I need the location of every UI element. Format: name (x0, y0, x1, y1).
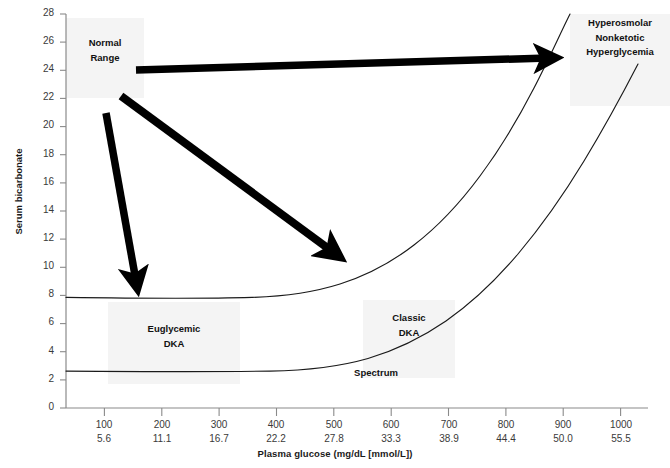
y-axis-ticks (60, 14, 66, 408)
diabetic-emergency-spectrum-chart: 0 2 4 6 8 10 12 14 16 18 20 22 24 26 28 … (0, 0, 670, 468)
y-tick-6: 6 (28, 316, 54, 327)
hyperosmolar-line2: Nonketotic (595, 32, 644, 43)
hyperosmolar-line3: Hyperglycemia (586, 46, 654, 57)
classic-dka-label: Classic DKA (365, 311, 453, 340)
x-tick-mgdl-900: 900 (533, 419, 593, 430)
x-tick-mmoll-50-0: 50.0 (533, 433, 593, 444)
y-tick-12: 12 (28, 232, 54, 243)
y-tick-8: 8 (28, 288, 54, 299)
x-tick-mmoll-11-1: 11.1 (132, 433, 192, 444)
euglycemic-line1: Euglycemic (148, 323, 201, 334)
y-tick-4: 4 (28, 345, 54, 356)
y-axis-title: Serum bicarbonate (13, 122, 24, 262)
x-tick-mgdl-400: 400 (246, 419, 306, 430)
spectrum-label: Spectrum (336, 366, 416, 381)
x-tick-mmoll-22-2: 22.2 (246, 433, 306, 444)
y-tick-2: 2 (28, 373, 54, 384)
y-tick-10: 10 (28, 260, 54, 271)
x-tick-mmoll-55-5: 55.5 (591, 433, 651, 444)
x-tick-mgdl-800: 800 (476, 419, 536, 430)
x-tick-mgdl-300: 300 (189, 419, 249, 430)
x-tick-mgdl-100: 100 (74, 419, 134, 430)
hyperosmolar-line1: Hyperosmolar (588, 17, 652, 28)
arrow-to-euglycemic-dka (106, 113, 136, 281)
y-tick-22: 22 (28, 91, 54, 102)
normal-range-line2: Range (90, 52, 119, 63)
x-axis-title: Plasma glucose (mg/dL [mmol/L]) (0, 448, 670, 459)
x-tick-mmoll-33-3: 33.3 (361, 433, 421, 444)
y-tick-0: 0 (28, 401, 54, 412)
y-tick-14: 14 (28, 204, 54, 215)
classic-line2: DKA (399, 327, 420, 338)
chart-canvas (0, 0, 670, 468)
hyperosmolar-label: Hyperosmolar Nonketotic Hyperglycemia (572, 16, 668, 60)
y-tick-24: 24 (28, 63, 54, 74)
y-tick-20: 20 (28, 119, 54, 130)
euglycemic-line2: DKA (164, 338, 185, 349)
x-tick-mmoll-44-4: 44.4 (476, 433, 536, 444)
x-tick-mgdl-700: 700 (419, 419, 479, 430)
x-tick-mmoll-16-7: 16.7 (189, 433, 249, 444)
arrow-to-hyperosmolar (136, 58, 548, 70)
x-tick-mgdl-500: 500 (304, 419, 364, 430)
arrow-to-classic-dka (121, 96, 333, 252)
normal-range-label: Normal Range (66, 36, 144, 65)
y-tick-28: 28 (28, 7, 54, 18)
x-axis-ticks (104, 408, 620, 416)
x-tick-mgdl-1000: 1000 (591, 419, 651, 430)
y-tick-18: 18 (28, 148, 54, 159)
x-tick-mmoll-27-8: 27.8 (304, 433, 364, 444)
normal-range-line1: Normal (89, 37, 122, 48)
x-tick-mmoll-38-9: 38.9 (419, 433, 479, 444)
x-tick-mgdl-600: 600 (361, 419, 421, 430)
y-tick-16: 16 (28, 176, 54, 187)
euglycemic-dka-label: Euglycemic DKA (110, 322, 238, 351)
y-tick-26: 26 (28, 35, 54, 46)
classic-line1: Classic (392, 312, 425, 323)
x-tick-mmoll-5-6: 5.6 (74, 433, 134, 444)
x-tick-mgdl-200: 200 (132, 419, 192, 430)
